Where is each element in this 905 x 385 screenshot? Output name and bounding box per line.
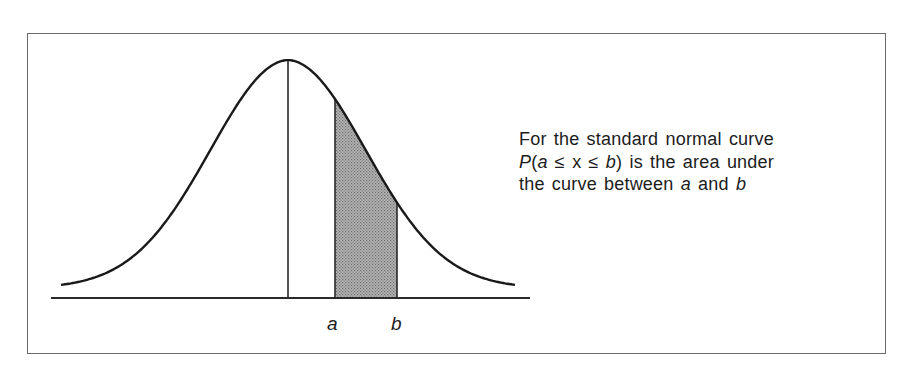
figure-caption: For the standard normal curveP(a ≤ x ≤ b… [519,128,774,196]
caption-text: For the standard normal curve [519,129,774,149]
caption-text: x [572,152,581,172]
caption-text: the curve between [519,174,681,194]
x-label-b: b [391,313,402,335]
caption-text: ≤ [581,152,605,172]
caption-text: and [691,174,736,194]
caption-text: P [519,152,531,172]
caption-text: a [681,174,691,194]
caption-text: b [606,152,616,172]
caption-text: b [736,174,746,194]
caption-text: ≤ [548,152,572,172]
caption-text: ) is the area under [616,152,774,172]
caption-line-1: For the standard normal curve [519,128,774,151]
caption-text: a [537,152,547,172]
caption-line-3: the curve between a and b [519,173,774,196]
shaded-area-a-to-b [335,99,397,298]
x-label-a: a [327,313,338,335]
caption-line-2: P(a ≤ x ≤ b) is the area under [519,151,774,174]
